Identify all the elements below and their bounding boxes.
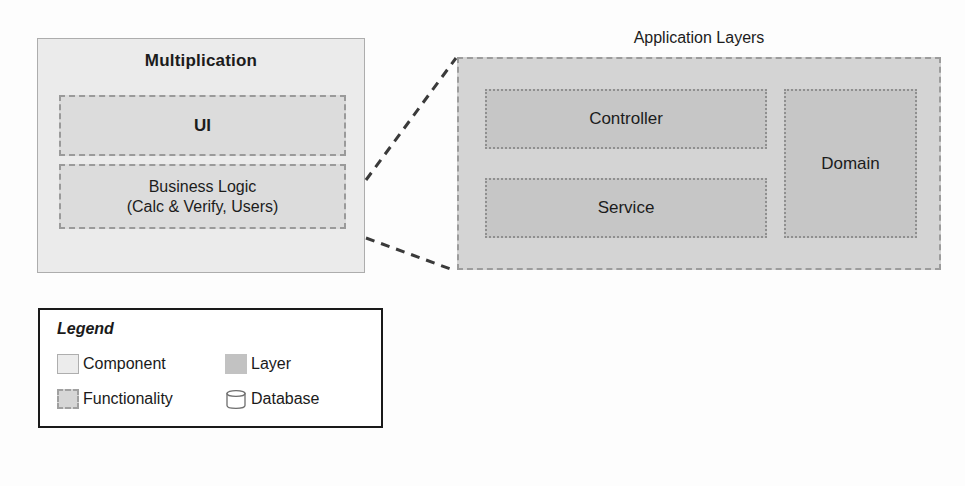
legend: Legend Component Layer Functionality Dat… [38,308,383,428]
component-title: Multiplication [38,51,364,71]
functionality-ui-label: UI [194,115,211,136]
functionality-business-logic[interactable]: Business Logic (Calc & Verify, Users) [59,164,346,229]
legend-item-database: Database [225,389,320,409]
database-cylinder-icon [225,389,247,409]
component-multiplication[interactable]: Multiplication UI Business Logic (Calc &… [37,38,365,273]
legend-item-layer: Layer [225,354,291,374]
functionality-business-logic-line2: (Calc & Verify, Users) [127,197,279,217]
component-swatch-icon [57,354,79,374]
application-layers-title: Application Layers [457,29,941,47]
diagram-canvas: Multiplication UI Business Logic (Calc &… [0,0,965,486]
connector-line-bottom [366,238,456,271]
legend-item-functionality: Functionality [57,389,173,409]
functionality-business-logic-text: Business Logic (Calc & Verify, Users) [127,177,279,217]
connector-line-top [366,58,456,180]
background-bleed-text [400,290,405,310]
legend-item-functionality-label: Functionality [83,390,173,408]
layer-service-label: Service [598,198,655,218]
legend-title: Legend [57,320,114,338]
legend-item-component-label: Component [83,355,166,373]
legend-item-database-label: Database [251,390,320,408]
layer-domain-label: Domain [821,154,880,174]
layer-controller-label: Controller [589,109,663,129]
layer-swatch-icon [225,354,247,374]
layer-controller[interactable]: Controller [485,89,767,149]
legend-item-layer-label: Layer [251,355,291,373]
layer-domain[interactable]: Domain [784,89,917,238]
functionality-swatch-icon [57,389,79,409]
container-application-layers[interactable]: Controller Service Domain [457,57,941,270]
legend-item-component: Component [57,354,166,374]
functionality-ui[interactable]: UI [59,95,346,156]
layer-service[interactable]: Service [485,178,767,238]
functionality-business-logic-line1: Business Logic [127,177,279,197]
